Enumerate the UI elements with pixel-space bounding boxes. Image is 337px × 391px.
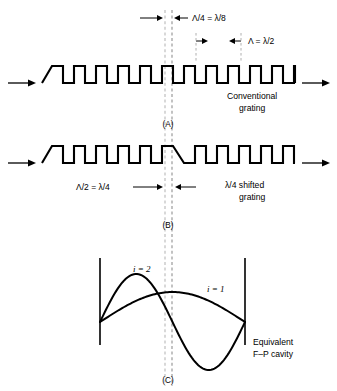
dimension-label-half-period-shift: Λ/2 = λ/4 [76,182,110,192]
panel-a-caption-line2: grating [239,103,265,113]
optics-figure-svg: Λ/4 = λ/8 Λ = λ/2 Conventional grating (… [0,0,337,391]
input-arrow-b-head [28,160,36,167]
dimension-grating-period: Λ = λ/2 [196,33,275,63]
panel-a: Λ/4 = λ/8 Λ = λ/2 Conventional grating (… [8,13,330,129]
dimension-label-grating-period: Λ = λ/2 [248,36,275,46]
panel-b-label: (B) [163,221,174,230]
input-arrow-a-head [28,80,36,87]
panel-c-label: (C) [162,376,174,385]
dimension-arrow-head [202,38,208,44]
dimension-arrow-head [157,15,163,21]
output-arrow-a-head [322,80,330,87]
dimension-arrow-head [229,38,235,44]
mode-label-i-1: i = 1 [207,284,225,294]
dimension-label-quarter-shift: Λ/4 = λ/8 [192,13,226,23]
dimension-arrow-head [174,15,180,21]
panel-a-caption-line1: Conventional [227,91,277,101]
dimension-half-period-shift: Λ/2 = λ/4 [76,182,196,192]
light-flow-arrows-a [8,80,330,87]
panel-c: i = 2 i = 1 Equivalent F–P cavity (C) [100,258,294,385]
shifted-grating-waveform [42,146,295,163]
panel-c-caption-line2: F–P cavity [253,349,294,359]
panel-b-caption-line1: λ/4 shifted [225,180,264,190]
dimension-arrow-head [175,184,181,190]
figure-container: Λ/4 = λ/8 Λ = λ/2 Conventional grating (… [0,0,337,391]
panel-c-caption-line1: Equivalent [253,337,294,347]
mode-label-i-2: i = 2 [133,264,151,274]
conventional-grating-waveform [42,66,295,83]
panel-b: Λ/2 = λ/4 λ/4 shifted grating (B) [8,146,330,230]
dimension-quarter-shift: Λ/4 = λ/8 [140,13,226,23]
dimension-arrow-head [157,184,163,190]
panel-a-label: (A) [163,120,174,129]
output-arrow-b-head [322,160,330,167]
panel-b-caption-line2: grating [239,192,265,202]
